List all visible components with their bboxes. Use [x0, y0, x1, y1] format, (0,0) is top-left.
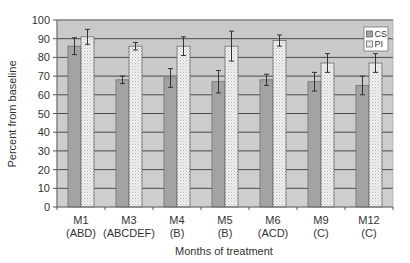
- x-tick-sublabel: (ABCDEF): [103, 227, 155, 239]
- y-tick-label: 80: [38, 51, 50, 63]
- y-tick-label: 20: [38, 164, 50, 176]
- bar-pi: [129, 46, 142, 207]
- bar-chart: 0102030405060708090100 M1(ABD)M3(ABCDEF)…: [0, 0, 410, 263]
- x-tick-label: M3: [121, 214, 136, 226]
- y-tick-label: 90: [38, 33, 50, 45]
- y-axis-ticks: 0102030405060708090100: [32, 14, 57, 213]
- x-tick-label: M5: [217, 214, 232, 226]
- y-tick-label: 50: [38, 108, 50, 120]
- bar-cs: [116, 80, 129, 207]
- legend-swatch-cs: [367, 31, 373, 37]
- x-axis-ticks: M1(ABD)M3(ABCDEF)M4(B)M5(B)M6(ACD)M9(C)M…: [57, 207, 393, 239]
- y-axis-title: Percent from baseline: [6, 61, 18, 168]
- x-tick-label: M4: [169, 214, 184, 226]
- x-tick-sublabel: (B): [218, 227, 233, 239]
- legend-label-pi: PI: [375, 39, 384, 49]
- x-tick-sublabel: (C): [361, 227, 376, 239]
- bar-pi: [81, 37, 94, 207]
- bar-cs: [260, 80, 273, 207]
- bar-cs: [308, 82, 321, 207]
- x-tick-sublabel: (ABD): [66, 227, 96, 239]
- x-tick-label: M6: [265, 214, 280, 226]
- bar-cs: [68, 46, 81, 207]
- legend-swatch-pi: [367, 41, 373, 47]
- y-tick-label: 70: [38, 70, 50, 82]
- legend: CSPI: [364, 27, 388, 51]
- x-tick-label: M9: [313, 214, 328, 226]
- y-tick-label: 60: [38, 89, 50, 101]
- y-tick-label: 30: [38, 145, 50, 157]
- x-axis-title: Months of treatment: [175, 245, 273, 257]
- bar-pi: [177, 46, 190, 207]
- x-tick-sublabel: (C): [313, 227, 328, 239]
- bar-pi: [225, 46, 238, 207]
- y-tick-label: 40: [38, 126, 50, 138]
- legend-label-cs: CS: [375, 29, 388, 39]
- x-tick-sublabel: (ACD): [258, 227, 289, 239]
- bar-pi: [273, 41, 286, 207]
- bar-cs: [356, 85, 369, 207]
- bar-cs: [164, 78, 177, 207]
- x-tick-label: M1: [73, 214, 88, 226]
- x-tick-label: M12: [358, 214, 379, 226]
- x-tick-sublabel: (B): [170, 227, 185, 239]
- y-tick-label: 100: [32, 14, 50, 26]
- y-tick-label: 10: [38, 182, 50, 194]
- y-tick-label: 0: [44, 201, 50, 213]
- bar-cs: [212, 82, 225, 207]
- bar-pi: [321, 63, 334, 207]
- bar-pi: [369, 63, 382, 207]
